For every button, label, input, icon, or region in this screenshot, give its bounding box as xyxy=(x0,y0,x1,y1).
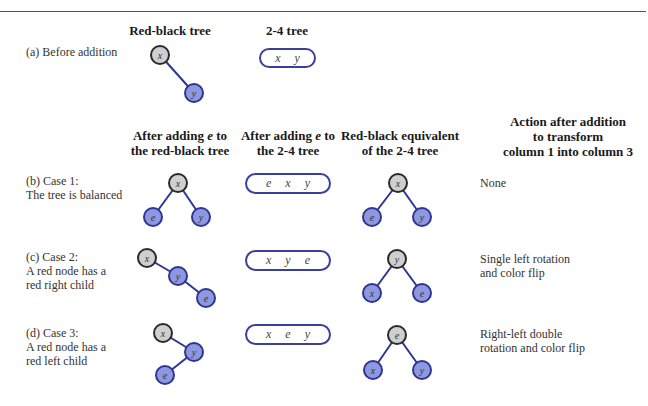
tree-b-red-black: xey xyxy=(144,174,210,226)
node-key-label: e xyxy=(370,212,375,223)
tree-diagrams: xy xey xey xye yxe xye exy xyxy=(0,0,648,406)
node-key-label: y xyxy=(419,365,425,376)
node-key-label: e xyxy=(163,370,168,381)
node-key-label: y xyxy=(175,271,181,282)
node-key-label: x xyxy=(160,328,166,339)
tree-a-red-black: xy xyxy=(151,46,203,102)
node-key-label: e xyxy=(204,293,209,304)
node-key-label: x xyxy=(370,365,376,376)
tree-d-equivalent: exy xyxy=(364,326,431,379)
node-key-label: y xyxy=(198,212,204,223)
tree-d-red-black: xye xyxy=(154,324,203,384)
node-key-label: x xyxy=(144,253,150,264)
node-key-label: y xyxy=(419,212,425,223)
node-key-label: x xyxy=(369,288,375,299)
tree-b-equivalent: xey xyxy=(363,174,431,226)
node-key-label: e xyxy=(151,212,156,223)
node-key-label: y xyxy=(191,347,197,358)
node-key-label: y xyxy=(191,88,197,99)
node-key-label: x xyxy=(395,178,401,189)
node-key-label: x xyxy=(175,178,181,189)
node-key-label: y xyxy=(394,254,400,265)
node-key-label: x xyxy=(157,50,163,61)
node-key-label: e xyxy=(420,288,425,299)
tree-c-equivalent: yxe xyxy=(363,250,431,302)
tree-c-red-black: xye xyxy=(138,249,215,307)
node-key-label: e xyxy=(395,330,400,341)
